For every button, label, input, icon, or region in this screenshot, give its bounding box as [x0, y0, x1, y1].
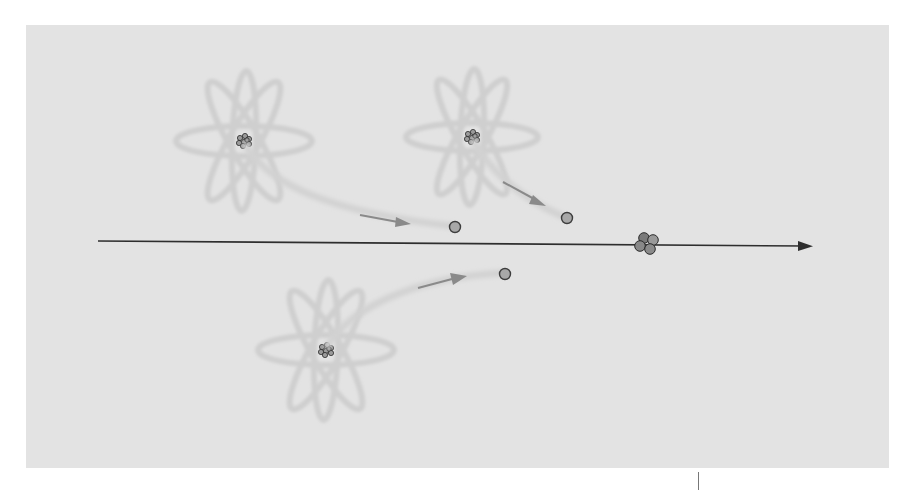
atom-bottom	[258, 280, 394, 421]
particle-from-top-left	[450, 222, 461, 233]
particle-cluster-icon	[635, 233, 659, 255]
arrow-bottom	[418, 273, 467, 288]
axis-arrowhead-icon	[798, 241, 813, 251]
particle-from-bottom	[500, 269, 511, 280]
diagram-canvas	[0, 0, 910, 491]
axis-arrow	[98, 241, 813, 251]
emitted-particles	[450, 213, 573, 280]
arrow-top-middle	[503, 182, 546, 206]
atom-top-left	[176, 71, 312, 212]
axis-line	[98, 241, 806, 246]
particle-from-top-middle	[562, 213, 573, 224]
direction-arrows	[360, 182, 546, 288]
page-marker	[698, 472, 699, 490]
atom-top-middle	[406, 69, 538, 206]
